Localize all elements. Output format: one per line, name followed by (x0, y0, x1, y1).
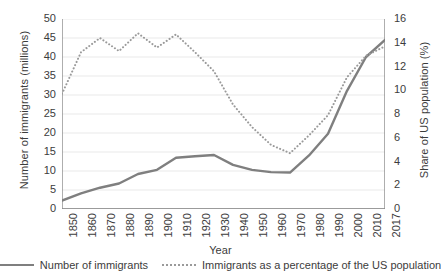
series-line-1 (62, 33, 385, 153)
y-axis-right-tick-label: 6 (394, 132, 400, 143)
x-axis-tick-label: 1880 (124, 213, 136, 237)
x-axis-tick-label: 1890 (143, 213, 155, 237)
y-axis-right-ticks: 0246810121416 (394, 19, 424, 209)
x-axis-tick-label: 1850 (67, 213, 79, 237)
y-axis-left-tick-label: 10 (44, 165, 56, 176)
x-axis-tick-label: 2000 (352, 213, 364, 237)
x-axis-tick-label: 1980 (314, 213, 326, 237)
chart-figure: Number of immigrants (millions) Share of… (0, 0, 441, 276)
x-axis-tick-label: 1950 (257, 213, 269, 237)
y-axis-left-tick-label: 40 (44, 51, 56, 62)
legend-item[interactable]: Number of immigrants (0, 259, 148, 271)
y-axis-left-tick-label: 25 (44, 108, 56, 119)
legend-solid-line-icon (0, 264, 34, 266)
y-axis-left-tick-label: 15 (44, 146, 56, 157)
chart-legend: Number of immigrantsImmigrants as a perc… (0, 254, 441, 276)
y-axis-left-tick-label: 45 (44, 32, 56, 43)
x-axis-tick-label: 1910 (181, 213, 193, 237)
y-axis-right-tick-label: 8 (394, 108, 400, 119)
series-line-0 (62, 40, 385, 201)
y-axis-right-tick-label: 14 (394, 37, 406, 48)
x-axis-tick-label: 1920 (200, 213, 212, 237)
legend-dotted-line-icon (162, 264, 196, 266)
legend-item[interactable]: Immigrants as a percentage of the US pop… (162, 259, 441, 271)
x-axis-tick-label: 2010 (371, 213, 383, 237)
x-axis-tick-label: 1930 (219, 213, 231, 237)
x-axis-tick-label: 1860 (86, 213, 98, 237)
legend-item-label: Number of immigrants (40, 259, 148, 271)
plot-svg (62, 19, 385, 209)
y-axis-right-tick-label: 2 (394, 179, 400, 190)
y-axis-right-tick-label: 10 (394, 84, 406, 95)
y-axis-right-tick-label: 12 (394, 61, 406, 72)
legend-item-label: Immigrants as a percentage of the US pop… (202, 259, 441, 271)
y-axis-left-tick-label: 50 (44, 13, 56, 24)
y-axis-left-tick-label: 0 (50, 203, 56, 214)
y-axis-left-tick-label: 30 (44, 89, 56, 100)
y-axis-left-tick-label: 35 (44, 70, 56, 81)
y-axis-left-ticks: 05101520253035404550 (26, 19, 56, 209)
x-axis-tick-label: 1940 (238, 213, 250, 237)
y-axis-right-tick-label: 16 (394, 13, 406, 24)
x-axis-tick-label: 2017 (390, 213, 402, 237)
x-axis-tick-label: 1990 (333, 213, 345, 237)
y-axis-left-tick-label: 20 (44, 127, 56, 138)
x-axis-ticks: 1850186018701880189019001910192019301940… (62, 213, 385, 247)
plot-area (62, 19, 385, 209)
x-axis-tick-label: 1960 (276, 213, 288, 237)
x-axis-tick-label: 1870 (105, 213, 117, 237)
x-axis-tick-label: 1900 (162, 213, 174, 237)
x-axis-tick-label: 1970 (295, 213, 307, 237)
y-axis-left-tick-label: 5 (50, 184, 56, 195)
y-axis-right-tick-label: 4 (394, 156, 400, 167)
